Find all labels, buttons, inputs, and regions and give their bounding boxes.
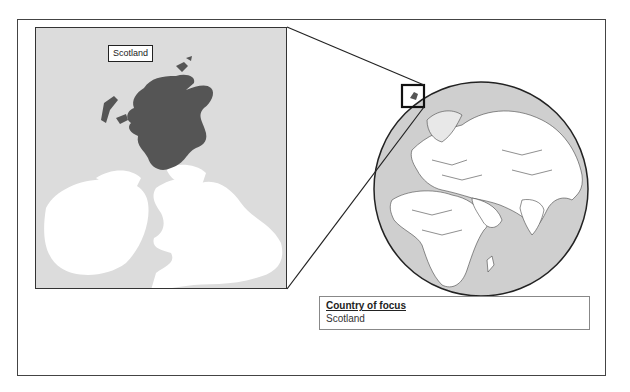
orthographic-globe — [372, 80, 590, 298]
legend-value: Scotland — [326, 312, 583, 326]
legend-title: Country of focus — [326, 299, 583, 312]
inset-map: Scotland — [35, 27, 287, 289]
globe — [372, 80, 590, 298]
british-isles-map — [36, 28, 287, 289]
region-label: Scotland — [108, 45, 153, 62]
legend-box: Country of focus Scotland — [319, 296, 590, 330]
